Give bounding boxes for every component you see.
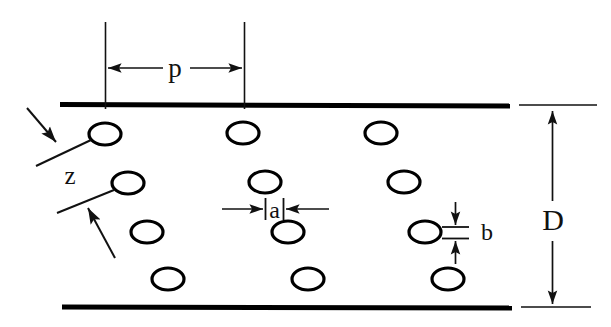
element-ellipse [292,268,324,290]
element-height-dimension: b [442,202,493,264]
element-height-label: b [481,219,493,245]
element-ellipse [131,221,163,243]
element-ellipse [272,221,304,243]
element-ellipse [365,122,397,144]
element-ellipse [249,171,281,193]
pitch-label: p [168,53,182,83]
bottom-wall-line [62,307,512,308]
z-lower-leader-arrow [88,208,115,258]
element-ellipse [89,123,121,145]
duct-height-dimension: D [542,111,564,304]
element-width-label: a [269,197,280,223]
element-width-dimension: a [222,197,329,223]
z-upper-leader-arrow [27,108,56,142]
element-ellipse [112,172,144,194]
offset-label: z [64,162,75,189]
diagram-canvas: p D a [0,0,611,327]
element-ellipse [432,268,464,290]
top-wall-line [60,105,510,107]
element-ellipse [227,122,259,144]
duct-cross-section-diagram: p D a [0,0,611,327]
element-ellipse [409,221,441,243]
element-ellipse [152,268,184,290]
element-ellipse [388,171,420,193]
duct-height-label: D [542,203,564,236]
pitch-dimension: p [108,53,242,83]
z-lower-leader-line [57,190,114,213]
